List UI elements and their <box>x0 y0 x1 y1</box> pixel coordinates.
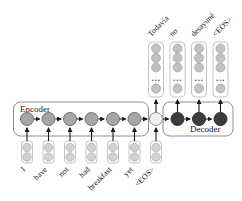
embedding-circle <box>23 153 31 161</box>
output-circle <box>216 54 225 63</box>
output-circle <box>195 84 204 93</box>
output-circle <box>173 84 182 93</box>
embedding-circle <box>152 153 160 161</box>
input-token-label: yet <box>122 165 136 179</box>
embedding-circle <box>23 143 31 151</box>
embedding-circle <box>130 143 138 151</box>
encoder-state-circle <box>107 113 120 126</box>
diagram-canvas: Encoder Decoder Ihavenothadbreakfastyet<… <box>0 0 242 201</box>
encoder-state-circle <box>42 113 55 126</box>
decoder-state-circle <box>214 113 227 126</box>
decoder-state-circle <box>171 113 184 126</box>
encoder-state-circle <box>128 113 141 126</box>
output-token-label: Todavía <box>146 14 171 39</box>
embedding-circle <box>66 143 74 151</box>
input-token-label: not <box>57 165 71 179</box>
generated-diagram-elements: Ihavenothadbreakfastyet<EOS>...Todavía..… <box>19 11 234 192</box>
decoder-label: Decoder <box>190 124 220 134</box>
embedding-circle <box>87 143 95 151</box>
output-circle <box>216 84 225 93</box>
embedding-circle <box>130 153 138 161</box>
output-token-label: no <box>168 26 180 38</box>
output-circle <box>195 63 204 72</box>
output-circle <box>173 63 182 72</box>
input-token-label: breakfast <box>86 165 114 193</box>
ellipsis-label: ... <box>216 75 225 83</box>
output-circle <box>152 54 161 63</box>
embedding-circle <box>87 153 95 161</box>
output-circle <box>152 84 161 93</box>
embedding-circle <box>109 153 117 161</box>
decoder-state-circle <box>193 113 206 126</box>
input-token-label: had <box>77 165 92 180</box>
input-token-label: have <box>32 165 49 182</box>
embedding-circle <box>66 153 74 161</box>
ellipsis-label: ... <box>194 75 203 83</box>
output-circle <box>173 54 182 63</box>
seq2seq-diagram: Encoder Decoder Ihavenothadbreakfastyet<… <box>0 0 242 201</box>
output-circle <box>216 44 225 53</box>
output-circle <box>195 44 204 53</box>
encoder-state-circle <box>64 113 77 126</box>
embedding-circle <box>44 143 52 151</box>
output-circle <box>173 44 182 53</box>
embedding-circle <box>152 143 160 151</box>
input-token-label: <EOS> <box>133 165 157 189</box>
output-circle <box>152 44 161 53</box>
embedding-circle <box>109 143 117 151</box>
output-circle <box>216 63 225 72</box>
ellipsis-label: ... <box>151 75 160 83</box>
ellipsis-label: ... <box>173 75 182 83</box>
encoder-state-circle <box>21 113 34 126</box>
embedding-circle <box>44 153 52 161</box>
encoder-state-circle <box>85 113 98 126</box>
output-circle <box>152 63 161 72</box>
output-circle <box>195 54 204 63</box>
context-state-circle <box>150 113 163 126</box>
input-token-label: I <box>19 165 27 173</box>
